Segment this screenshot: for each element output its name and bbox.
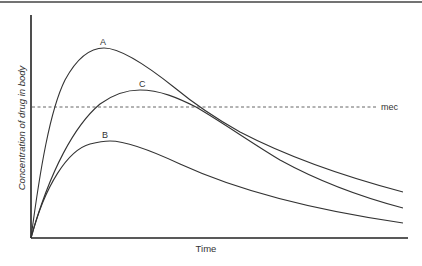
curve-b xyxy=(31,141,403,238)
x-axis-label: Time xyxy=(196,243,217,254)
curve-b-label: B xyxy=(102,130,108,140)
curve-a-label: A xyxy=(100,37,106,47)
curve-c-label: C xyxy=(139,79,146,89)
mec-label: mec xyxy=(381,102,399,112)
curve-a xyxy=(31,48,403,238)
curve-c xyxy=(31,90,403,238)
concentration-time-chart: mec A C B Time Concentration of drug in … xyxy=(0,0,422,266)
y-axis-label: Concentration of drug in body xyxy=(16,64,27,190)
